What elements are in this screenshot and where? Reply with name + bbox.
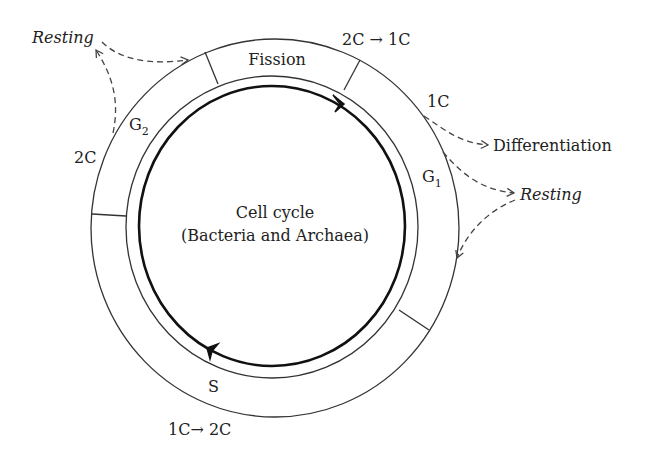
dna-s-transition-label: 1C→ 2C [168, 420, 231, 439]
divider-s-g2 [92, 214, 126, 216]
resting-right-label: Resting [519, 185, 582, 204]
resting-left-label: Resting [31, 28, 94, 47]
center-subtitle: (Bacteria and Archaea) [181, 226, 369, 245]
divider-g2-fission [205, 52, 218, 84]
dash-arrow-resting-to-fission [102, 42, 188, 62]
differentiation-label: Differentiation [493, 136, 612, 155]
dash-arrow-g2-to-resting [96, 50, 116, 133]
cycle-arrowhead-bottom-icon [207, 344, 218, 359]
divider-fission-g1 [344, 60, 360, 90]
center-title: Cell cycle [236, 203, 315, 222]
dash-arrow-to-differentiation [424, 116, 488, 145]
phase-g1-label: G1 [422, 167, 442, 190]
dash-arrow-resting-to-g1 [457, 200, 515, 258]
phase-s-label: S [208, 377, 219, 396]
dna-fission-transition-label: 2C → 1C [342, 30, 410, 49]
phase-fission-label: Fission [248, 50, 306, 69]
dna-1c-label: 1C [427, 92, 449, 111]
dna-2c-label: 2C [74, 148, 96, 167]
dash-arrow-g1-to-resting [443, 152, 514, 193]
cell-cycle-diagram: Cell cycle (Bacteria and Archaea) Fissio… [0, 0, 654, 456]
divider-g1-s [399, 310, 429, 330]
phase-g2-label: G2 [129, 115, 149, 138]
